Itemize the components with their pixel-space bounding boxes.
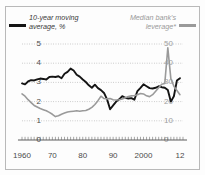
chart-figure: 10-year moving average, % Median bank's … [0, 0, 205, 175]
grey-line-swatch [179, 24, 196, 27]
legend-label-right: Median bank's leverage* [130, 13, 176, 31]
series-line-grey [22, 48, 180, 117]
x-tick-label: 1960 [13, 152, 31, 160]
series-line-black [22, 69, 180, 110]
x-tick-label: 2000 [135, 152, 153, 160]
legend-entry-left: 10-year moving average, % [9, 4, 79, 31]
x-axis-labels: 1960708090200012 [22, 152, 183, 162]
plot-svg [22, 44, 183, 140]
x-tick-label: 90 [109, 152, 118, 160]
legend-entry-right: Median bank's leverage* [130, 4, 196, 31]
x-tick-label: 70 [48, 152, 57, 160]
black-line-swatch [9, 24, 26, 27]
x-tick-label: 12 [176, 152, 185, 160]
legend-label-left: 10-year moving average, % [29, 13, 79, 31]
x-tick-label: 80 [78, 152, 87, 160]
plot-area [22, 44, 183, 140]
